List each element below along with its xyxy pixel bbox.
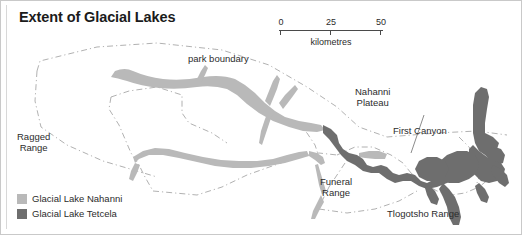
legend-item-glacial-lake-tetcela: Glacial Lake Tetcela [17, 206, 122, 221]
scale-tick-25: 25 [326, 17, 336, 27]
label-nahanni-plateau: Nahanni Plateau [355, 86, 390, 108]
legend-swatch-tetcela [17, 209, 27, 219]
page-title: Extent of Glacial Lakes [19, 9, 175, 25]
legend-label-tetcela: Glacial Lake Tetcela [32, 208, 117, 219]
glacial-lakes-map-figure: Extent of Glacial Lakes 0 25 50 kilometr… [0, 0, 522, 235]
scale-tick-0: 0 [278, 17, 283, 27]
scale-tick-50: 50 [376, 17, 386, 27]
scale-bar-line [279, 30, 383, 31]
label-tlogotsho-range: Tlogotsho Range [387, 208, 459, 219]
label-first-canyon: First Canyon [393, 125, 447, 136]
scale-bar-rule [279, 30, 383, 36]
scale-bar-tick-mid [330, 30, 331, 35]
scale-bar-tick-left [280, 30, 281, 35]
label-park-boundary: park boundary [188, 53, 249, 64]
scale-bar: 0 25 50 kilometres [279, 17, 383, 51]
scale-bar-tick-right [380, 30, 381, 35]
glacial-lake-tetcela-shape [323, 87, 509, 225]
map-legend: Glacial Lake Nahanni Glacial Lake Tetcel… [17, 191, 122, 221]
legend-item-glacial-lake-nahanni: Glacial Lake Nahanni [17, 191, 122, 206]
label-funeral-range: Funeral Range [320, 176, 352, 198]
legend-label-nahanni: Glacial Lake Nahanni [32, 193, 122, 204]
label-ragged-range: Ragged Range [17, 131, 50, 153]
legend-swatch-nahanni [17, 194, 27, 204]
scale-bar-unit-label: kilometres [279, 37, 383, 47]
map-frame: Extent of Glacial Lakes 0 25 50 kilometr… [6, 5, 516, 229]
scale-bar-ticks: 0 25 50 [279, 17, 383, 29]
